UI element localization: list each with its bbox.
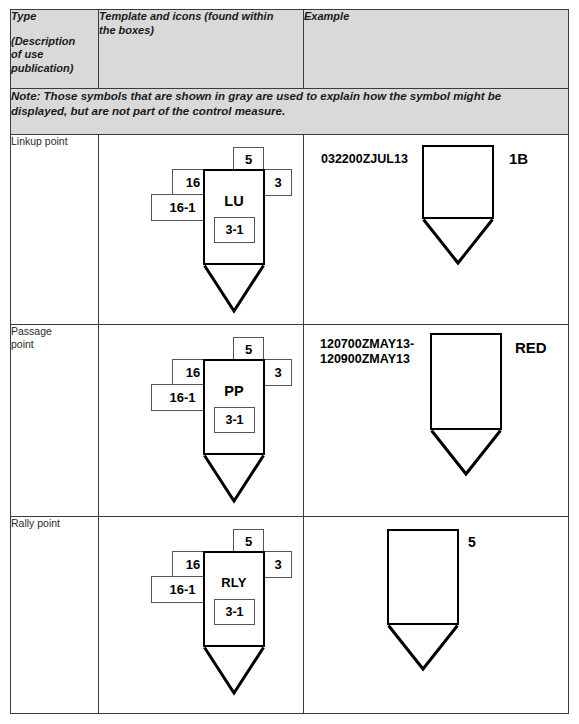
example-point-v [430,429,502,477]
example-right-label: 5 [468,534,476,550]
symbol-point-v [203,454,265,504]
symbol-abbreviation: PP [205,383,263,399]
header-type-sub1: (Description [11,35,98,49]
type-cell-passage: Passage point [11,324,99,516]
example-dtg: 032200ZJUL13 [321,152,408,167]
header-cell-type: Type (Description of use publication) [11,10,99,89]
example-symbol-rally: RLY A TRP 5 [304,517,568,713]
example-cell-rally: RLY A TRP 5 [304,516,569,713]
header-type-sub2: of use [11,48,98,62]
header-cell-example: Example [304,10,569,89]
type-cell-rally: Rally point [11,516,99,713]
amplifier-box-inner: 3-1 [214,599,255,625]
template-symbol-rally: 5 16 3 16-1 RLY 3-1 [151,529,301,704]
example-point-v [422,218,494,266]
amplifier-box-right: 3 [264,359,292,386]
amplifier-box-right: 3 [264,551,292,578]
header-type-sub3: publication) [11,62,98,76]
example-point-v [387,624,459,672]
table-header-row: Type (Description of use publication) Te… [11,10,569,89]
table-row: Passage point 5 16 3 16-1 PP 3-1 [11,324,569,516]
symbol-abbreviation: LU [205,193,263,209]
amplifier-box-right: 3 [264,169,292,196]
example-main-box [430,333,502,430]
example-right-label: 1B [509,150,528,167]
header-example-label: Example [304,10,568,24]
example-cell-linkup: 032200ZJUL13 LU 3BCT 1B [304,134,569,324]
type-cell-linkup: Linkup point [11,134,99,324]
example-cell-passage: 120700ZMAY13- 120900ZMAY13 PP 2-31IN RED [304,324,569,516]
table-note-row: Note: Those symbols that are shown in gr… [11,89,569,134]
header-template-line1: Template and icons (found within [99,10,303,24]
symbol-point-v [203,264,265,314]
example-symbol-passage: 120700ZMAY13- 120900ZMAY13 PP 2-31IN RED [304,325,568,516]
example-main-box [422,145,494,219]
template-cell-linkup: 5 16 3 16-1 LU 3-1 [99,134,304,324]
note-line-1: Note: Those symbols that are shown in gr… [11,89,568,104]
symbol-reference-page: Type (Description of use publication) Te… [0,0,579,724]
note-cell: Note: Those symbols that are shown in gr… [11,89,569,134]
header-type-title: Type [11,10,98,24]
example-dtg: 120700ZMAY13- 120900ZMAY13 [320,337,414,367]
template-symbol-linkup: 5 16 3 16-1 LU 3-1 [151,147,301,322]
table-row: Rally point 5 16 3 16-1 RLY 3-1 [11,516,569,713]
table-row: Linkup point 5 16 3 16-1 LU 3-1 [11,134,569,324]
amplifier-box-inner: 3-1 [214,217,255,243]
template-symbol-passage: 5 16 3 16-1 PP 3-1 [151,337,301,512]
example-symbol-linkup: 032200ZJUL13 LU 3BCT 1B [304,135,568,324]
template-cell-rally: 5 16 3 16-1 RLY 3-1 [99,516,304,713]
example-right-label: RED [515,339,547,356]
header-template-line2: the boxes) [99,24,303,38]
symbol-point-v [203,646,265,696]
symbol-reference-table: Type (Description of use publication) Te… [10,9,569,714]
symbol-abbreviation: RLY [205,575,263,590]
template-cell-passage: 5 16 3 16-1 PP 3-1 [99,324,304,516]
amplifier-box-inner: 3-1 [214,407,255,433]
header-cell-template: Template and icons (found within the box… [99,10,304,89]
note-line-2: displayed, but are not part of the contr… [11,104,568,119]
example-main-box [387,529,459,625]
